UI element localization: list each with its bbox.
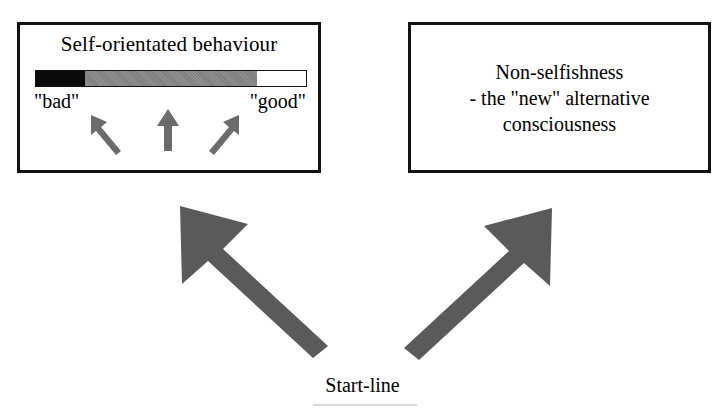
spectrum-label-good: "good" [250,89,306,113]
right-box-text: Non-selfishness - the "new" alternative … [411,59,708,137]
big-arrow-to-right-box [404,202,556,360]
spectrum-segment-good [257,71,306,86]
left-concept-box: Self-orientated behaviour "bad" "good" [17,22,321,173]
right-concept-box: Non-selfishness - the "new" alternative … [408,22,711,173]
right-box-line-2: - the "new" alternative [411,85,708,111]
start-line-rule [313,404,417,406]
spectrum-bar [35,70,307,87]
arrow-up-left-icon [88,111,128,155]
spectrum-label-bad: "bad" [34,89,79,113]
arrow-up-right-icon [202,111,242,155]
spectrum-segment-middle [85,71,258,86]
spectrum-segment-bad [36,71,85,86]
arrow-up-icon [148,107,188,151]
start-line-label: Start-line [0,372,725,398]
left-box-title: Self-orientated behaviour [20,31,318,57]
right-box-line-3: consciousness [411,111,708,137]
diagram-canvas: Self-orientated behaviour "bad" "good" [0,0,725,415]
big-arrow-to-left-box [176,200,328,358]
right-box-line-1: Non-selfishness [411,59,708,85]
